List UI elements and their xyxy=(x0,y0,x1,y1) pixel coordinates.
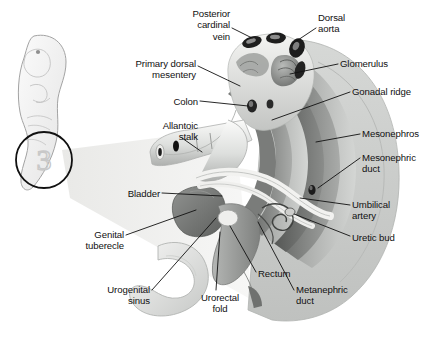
label-allantoic-stalk: Allantoic stalk xyxy=(140,120,198,143)
label-mesonephros: Mesonephros xyxy=(362,128,440,139)
label-bladder: Bladder xyxy=(110,188,160,199)
label-posterior-cardinal-vein: Posterior cardinal vein xyxy=(168,8,230,42)
label-glomerulus: Glomerulus xyxy=(340,58,418,69)
uretic-bud-tip xyxy=(285,208,295,216)
duct-lumen-right xyxy=(267,99,274,108)
label-gonadal-ridge: Gonadal ridge xyxy=(352,86,438,97)
label-genital-tuberecle: Genital tuberecle xyxy=(58,229,124,252)
label-rectum: Rectum xyxy=(258,268,306,279)
inset-circle-label: 3 xyxy=(37,143,52,176)
label-dorsal-aorta: Dorsal aorta xyxy=(318,12,378,35)
label-uretic-bud: Uretic bud xyxy=(352,232,422,243)
embryo-silhouette: 3 xyxy=(16,35,72,190)
label-umbilical-artery: Umbilical artery xyxy=(352,199,422,222)
label-urogenital-sinus: Urogenital sinus xyxy=(82,284,150,307)
label-metanephric-duct: Metanephric duct xyxy=(296,284,372,307)
label-primary-dorsal-mesentery: Primary dorsal mesentery xyxy=(118,58,196,81)
rectum-lumen xyxy=(218,210,238,226)
label-urorectal-fold: Urorectal fold xyxy=(190,292,250,315)
label-mesonephric-duct: Mesonephric duct xyxy=(362,152,440,175)
label-colon: Colon xyxy=(158,96,198,107)
leader-posterior-cardinal-vein xyxy=(232,28,252,38)
